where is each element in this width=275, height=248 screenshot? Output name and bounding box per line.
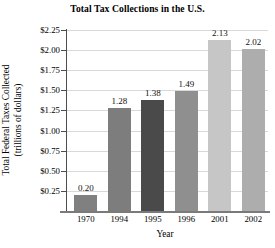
y-axis-tick-label: $1.75 [26,66,60,75]
y-axis-title: Total Federal Taxes Collected (trillions… [0,28,26,212]
bar [175,91,198,211]
bar [108,108,131,211]
bar-value-label: 1.49 [166,79,206,89]
bar [242,49,265,211]
bar-chart: Total Tax Collections in the U.S. Total … [0,0,275,248]
bar [141,100,164,211]
x-axis-tick-label: 2002 [233,214,273,225]
y-axis-title-line1: Total Federal Taxes Collected [1,65,11,176]
bar [208,40,231,211]
x-axis-title: Year [60,229,270,240]
y-axis-title-line2: (trillions of dollars) [13,65,25,176]
plot-area: 0.201.281.381.492.132.02 [67,30,268,211]
y-axis-tick-label: $1.25 [26,106,60,115]
x-axis-line [60,211,270,213]
y-axis-tick-label: $2.25 [26,26,60,35]
y-axis-tick-label: $2.00 [26,46,60,55]
bar [74,195,97,211]
y-axis-tick-label: $1.00 [26,127,60,136]
y-axis-tick-label: $0.50 [26,167,60,176]
y-axis-tick-label: $0.75 [26,147,60,156]
chart-title: Total Tax Collections in the U.S. [0,3,275,15]
bar-value-label: 0.20 [66,183,106,193]
bar-value-label: 1.38 [133,88,173,98]
y-axis-tick-label: $1.50 [26,86,60,95]
bar-value-label: 2.02 [233,37,273,47]
y-axis-tick-label: $0.25 [26,187,60,196]
